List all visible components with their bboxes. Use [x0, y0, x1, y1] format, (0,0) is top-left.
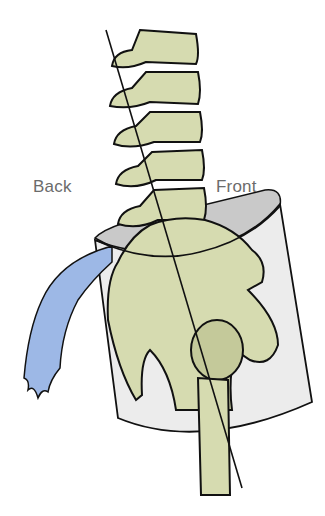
- back-label: Back: [33, 177, 72, 197]
- femur-head: [191, 320, 243, 380]
- water-spill: [24, 246, 112, 398]
- front-label: Front: [216, 177, 257, 197]
- lumbar-vertebrae: [110, 30, 206, 226]
- spine-pelvis-bucket-illustration: [0, 0, 325, 516]
